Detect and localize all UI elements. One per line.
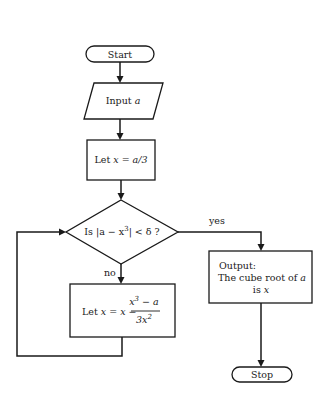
output-line1: Output:	[219, 260, 256, 271]
arrow-init-to-decision	[118, 180, 125, 200]
stop-label: Stop	[251, 369, 273, 380]
init-node: Let x = a/3	[87, 140, 155, 180]
yes-label: yes	[208, 215, 225, 226]
start-node: Start	[86, 46, 154, 62]
arrow-input-to-init	[117, 119, 124, 140]
decision-node: Is |a − x3| < δ ?	[66, 200, 178, 264]
output-line3-var: x	[264, 284, 270, 295]
update-denominator: 3x	[136, 314, 148, 325]
output-node: Output: The cube root of a is x	[209, 251, 312, 303]
no-label: no	[104, 267, 116, 278]
arrow-yes-branch: yes	[178, 215, 265, 251]
svg-text:Let x = x −: Let x = x −	[82, 306, 136, 317]
start-label: Start	[108, 49, 133, 60]
svg-text:is x: is x	[253, 284, 270, 295]
init-prefix: Let	[94, 154, 110, 165]
svg-text:x3 − a: x3 − a	[129, 295, 159, 307]
update-lhs: x = x −	[101, 306, 137, 317]
svg-text:Let x = a/3: Let x = a/3	[94, 154, 147, 165]
output-line2: The cube root of	[218, 272, 299, 283]
update-prefix: Let	[82, 306, 98, 317]
decision-prefix: Is |a − x	[84, 226, 125, 238]
svg-text:The cube root of a: The cube root of a	[218, 272, 306, 283]
flowchart: Start Input a Let x = a/3 Is |a − x3| < …	[0, 0, 332, 398]
update-num-rest: − a	[139, 296, 159, 307]
input-label: Input	[106, 95, 132, 106]
output-line3: is	[253, 284, 261, 295]
arrow-output-to-stop	[258, 303, 265, 367]
svg-text:Is |a − x3| < δ ?: Is |a − x3| < δ ?	[84, 225, 159, 238]
update-den-exp: 2	[146, 313, 152, 321]
update-node: Let x = x − x3 − a 3x2	[70, 284, 175, 337]
input-var: a	[135, 95, 141, 106]
decision-suffix: | < δ ?	[129, 226, 160, 238]
arrow-no-branch: no	[104, 264, 125, 284]
init-expr: x = a/3	[113, 154, 147, 165]
arrow-start-to-input	[117, 62, 124, 83]
stop-node: Stop	[232, 367, 292, 382]
input-node: Input a	[84, 83, 163, 119]
output-line2-var: a	[300, 272, 306, 283]
svg-text:Input a: Input a	[106, 95, 141, 106]
